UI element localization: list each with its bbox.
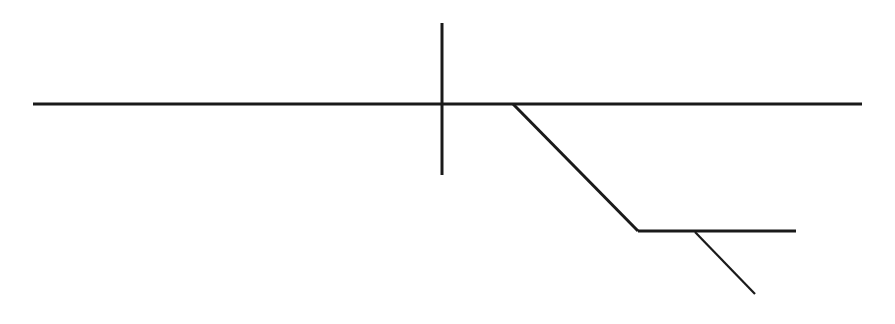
diagram-canvas <box>0 0 895 324</box>
branch-diagonal-line <box>513 104 638 231</box>
line-diagram <box>0 0 895 324</box>
lower-diagonal-line <box>695 232 755 294</box>
